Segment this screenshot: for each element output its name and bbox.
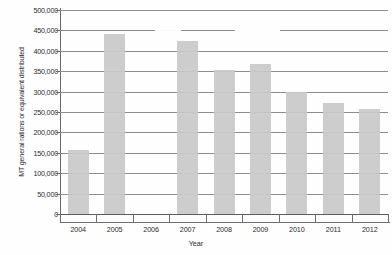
x-tick-label: 2006 [131, 225, 171, 234]
x-tick-label: 2004 [58, 225, 98, 234]
x-tick-label: 2011 [313, 225, 353, 234]
y-tick-label: 150,000 [14, 148, 58, 157]
bar [104, 34, 125, 214]
y-tick-label: 450,000 [14, 26, 58, 35]
x-tick-mark [279, 214, 280, 222]
y-tick-label: 400,000 [14, 46, 58, 55]
x-axis-tick-labels: 200420052006200720082009201020112012 [60, 225, 390, 237]
x-tick-mark [242, 214, 243, 222]
x-tick-label: 2007 [168, 225, 208, 234]
bar [214, 70, 235, 214]
x-tick-mark [60, 214, 61, 222]
y-tick-label: 50,000 [14, 189, 58, 198]
x-tick-label: 2008 [204, 225, 244, 234]
y-axis-tick-labels: 050,000100,000150,000200,000250,000300,0… [14, 10, 58, 214]
y-tick-label: 300,000 [14, 87, 58, 96]
bar [323, 103, 344, 214]
x-axis-title: Year [0, 239, 392, 248]
x-tick-label: 2009 [240, 225, 280, 234]
x-tick-label: 2005 [95, 225, 135, 234]
bar [68, 150, 89, 214]
x-tick-label: 2012 [350, 225, 390, 234]
y-tick-label: 0 [14, 210, 58, 219]
bars-layer [60, 10, 388, 214]
x-tick-mark [96, 214, 97, 222]
y-tick-label: 350,000 [14, 67, 58, 76]
x-tick-mark [206, 214, 207, 222]
x-axis-tick-marks [60, 214, 390, 222]
plot-area [60, 10, 388, 214]
bar-chart-figure: MT general rations or equivalent distrib… [0, 0, 392, 255]
bar [177, 41, 198, 214]
y-tick-label: 100,000 [14, 169, 58, 178]
y-tick-label: 250,000 [14, 108, 58, 117]
x-tick-mark [169, 214, 170, 222]
x-axis-line [60, 222, 390, 223]
bar [250, 64, 271, 214]
bar [359, 109, 380, 214]
x-tick-mark [133, 214, 134, 222]
x-tick-label: 2010 [277, 225, 317, 234]
y-tick-label: 500,000 [14, 6, 58, 15]
bar [286, 92, 307, 214]
x-tick-mark [352, 214, 353, 222]
x-tick-mark [388, 214, 389, 222]
y-tick-label: 200,000 [14, 128, 58, 137]
x-tick-mark [315, 214, 316, 222]
